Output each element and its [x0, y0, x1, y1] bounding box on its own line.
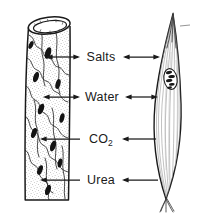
capillary-structure [25, 15, 71, 200]
label-co2: CO2 [89, 133, 113, 146]
label-salts: Salts [87, 51, 116, 64]
exchange-diagram: Salts Water CO2 Urea [0, 0, 201, 213]
label-water: Water [85, 91, 119, 104]
arrow-salts-right [123, 54, 160, 59]
muscle-fiber-structure [154, 13, 190, 212]
muscle-top-tick [180, 25, 190, 26]
arrow-urea-right [122, 177, 158, 182]
arrow-water-right [125, 94, 158, 99]
arrow-co2-right [122, 136, 156, 141]
label-urea: Urea [87, 174, 115, 187]
